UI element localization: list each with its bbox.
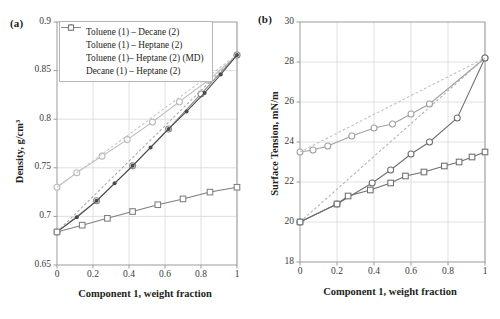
y-axis-tick-label: 30 xyxy=(260,16,294,26)
y-axis-tick-label: 0.7 xyxy=(17,210,51,220)
x-axis-tick-label: 0.8 xyxy=(185,269,217,279)
panel-b: (b) Surface Tension, mN/m Component 1, w… xyxy=(250,0,500,319)
x-axis-tick-label: 0.2 xyxy=(321,266,353,276)
legend-label-toluene-heptane-md: Toluene (1)– Heptane (2) (MD) xyxy=(86,53,204,63)
y-axis-tick-label: 22 xyxy=(260,176,294,186)
y-axis-tick-label: 0.85 xyxy=(17,64,51,74)
x-axis-tick-label: 0.6 xyxy=(149,269,181,279)
legend-label-toluene-decane: Toluene (1) – Decane (2) xyxy=(86,27,179,37)
legend-item-toluene-decane: Toluene (1) – Decane (2) xyxy=(64,25,208,38)
x-axis-tick-label: 0 xyxy=(41,269,73,279)
x-axis-tick-label: 0 xyxy=(284,266,316,276)
legend-label-toluene-heptane: Toluene (1) – Heptane (2) xyxy=(86,40,182,50)
x-axis-tick-label: 0.4 xyxy=(358,266,390,276)
x-axis-tick-label: 0.4 xyxy=(113,269,145,279)
legend-item-decane-heptane: Decane (1) – Heptane (2) xyxy=(64,65,208,78)
y-axis-tick-label: 0.8 xyxy=(17,113,51,123)
x-axis-tick-label: 0.6 xyxy=(395,266,427,276)
legend-label-decane-heptane: Decane (1) – Heptane (2) xyxy=(86,66,180,76)
y-axis-tick-label: 0.65 xyxy=(17,259,51,269)
y-axis-tick-label: 18 xyxy=(260,256,294,266)
x-axis-tick-label: 1 xyxy=(221,269,253,279)
legend: Toluene (1) – Decane (2) Toluene (1) – H… xyxy=(59,21,213,82)
y-axis-tick-label: 0.75 xyxy=(17,161,51,171)
y-axis-tick-label: 24 xyxy=(260,136,294,146)
figure-container: (a) Density, g/cm³ Component 1, weight f… xyxy=(0,0,500,319)
x-axis-tick-label: 0.2 xyxy=(77,269,109,279)
legend-item-toluene-heptane-md: Toluene (1)– Heptane (2) (MD) xyxy=(64,51,208,64)
y-axis-tick-label: 26 xyxy=(260,96,294,106)
y-axis-tick-label: 20 xyxy=(260,216,294,226)
y-axis-tick-label: 0.9 xyxy=(17,16,51,26)
panel-a: (a) Density, g/cm³ Component 1, weight f… xyxy=(0,0,250,319)
x-axis-tick-label: 1 xyxy=(469,266,500,276)
x-axis-tick-label: 0.8 xyxy=(432,266,464,276)
legend-item-toluene-heptane: Toluene (1) – Heptane (2) xyxy=(64,38,208,51)
y-axis-tick-label: 28 xyxy=(260,56,294,66)
